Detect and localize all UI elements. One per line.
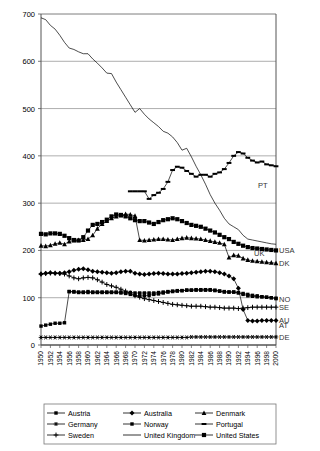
marker-square-filled [39,232,43,236]
marker-square [227,290,230,293]
marker-star [260,335,265,339]
xtick-label-1980: 1980 [178,351,185,366]
marker-square-filled [203,227,207,231]
xtick-label-1974: 1974 [150,351,157,366]
xtick-label-1986: 1986 [207,351,214,366]
marker-square [166,290,169,293]
marker-square [82,291,85,294]
marker-plus [86,275,91,280]
marker-diamond [71,268,76,273]
marker-plus [222,306,227,311]
marker-diamond [227,273,232,278]
marker-square [176,289,179,292]
marker-square-filled [265,247,269,251]
marker-triangle [184,235,189,240]
marker-star [62,335,67,339]
marker-plus [76,276,81,281]
marker-square-filled [152,222,156,226]
marker-diamond [274,318,279,323]
marker-diamond [198,269,203,274]
marker-plus [245,305,250,310]
marker-square [232,290,235,293]
marker-star [137,335,142,339]
marker-dash [227,162,232,164]
xtick-label-1964: 1964 [103,351,110,366]
marker-diamond [189,270,194,275]
marker-square-filled [142,219,146,223]
marker-plus [161,300,166,305]
marker-diamond [264,318,269,323]
xtick-label-1966: 1966 [113,351,120,366]
marker-star [246,335,251,339]
marker-star [180,335,185,339]
marker-star [231,335,236,339]
marker-dash [170,169,175,171]
marker-plus [217,305,222,310]
marker-square [115,291,118,294]
marker-square-filled [138,219,142,223]
xtick-label-1976: 1976 [160,351,167,366]
marker-square [63,321,66,324]
marker-plus [109,283,114,288]
marker-square-filled [109,214,113,218]
marker-plus [227,306,232,311]
marker-star [43,335,48,339]
marker-square [260,295,263,298]
marker-triangle [227,255,232,260]
marker-square [199,288,202,291]
marker-plus [81,275,86,280]
xtick-label-1954: 1954 [56,351,63,366]
series-PT [128,151,279,200]
marker-dash [250,160,255,162]
ytick-label-500: 500 [22,105,35,114]
marker-star [142,335,147,339]
marker-plus [48,271,53,276]
marker-star [250,335,255,339]
marker-square-filled [236,242,240,246]
marker-square [77,291,80,294]
marker-star [156,335,161,339]
marker-square-filled [105,218,109,222]
ytick-label-400: 400 [22,152,35,161]
marker-diamond [180,271,185,276]
marker-square [147,294,150,297]
marker-star [128,335,133,339]
marker-square [130,422,133,425]
xtick-label-1978: 1978 [169,351,176,366]
marker-plus [255,305,260,310]
end-label-USA: USA [279,246,294,255]
marker-diamond [208,269,213,274]
legend-label: Denmark [216,409,246,418]
marker-square-filled [171,216,175,220]
marker-diamond [90,269,95,274]
marker-square-filled [91,223,95,227]
marker-diamond [255,318,260,323]
marker-dash [161,188,166,190]
marker-square [91,291,94,294]
end-label-DE: DE [279,333,289,342]
xtick-label-1972: 1972 [141,351,148,366]
marker-plus [39,272,44,277]
marker-square [274,297,277,300]
marker-square-filled [180,219,184,223]
legend: AustriaAustraliaDenmarkGermanyNorwayPort… [44,404,276,444]
marker-star [269,335,274,339]
marker-star [152,335,157,339]
ytick-label-600: 600 [22,57,35,66]
marker-star [217,335,222,339]
marker-dash [203,174,208,176]
marker-square-filled [44,232,48,236]
legend-label: Austria [68,409,90,418]
marker-dash [274,165,279,167]
end-label-AT: AT [279,321,288,330]
xtick-label-1988: 1988 [216,351,223,366]
marker-square-filled [213,230,217,234]
marker-star [58,335,63,339]
marker-diamond [245,318,250,323]
xtick-label-1956: 1956 [66,351,73,366]
marker-square-filled [133,218,137,222]
end-label-DK: DK [279,259,289,268]
xtick-label-1984: 1984 [197,351,204,366]
marker-dash [133,190,138,192]
marker-square-filled [67,236,71,240]
